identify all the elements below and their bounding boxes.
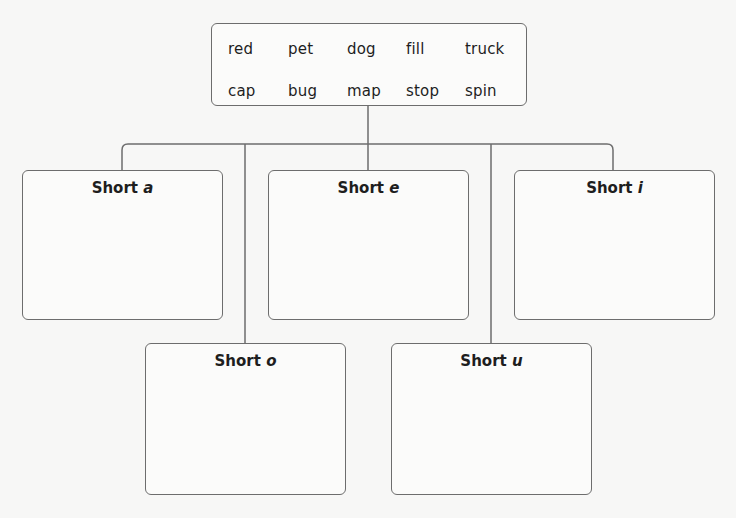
word-dog: dog xyxy=(347,40,376,58)
short-u-title: Short u xyxy=(392,352,591,370)
short-u-box[interactable]: Short u xyxy=(391,343,592,495)
word-map: map xyxy=(347,82,381,100)
short-i-box[interactable]: Short i xyxy=(514,170,715,320)
word-bug: bug xyxy=(288,82,317,100)
short-a-box[interactable]: Short a xyxy=(22,170,223,320)
short-a-title: Short a xyxy=(23,179,222,197)
short-e-box[interactable]: Short e xyxy=(268,170,469,320)
word-pet: pet xyxy=(288,40,313,58)
short-o-box[interactable]: Short o xyxy=(145,343,346,495)
short-i-title: Short i xyxy=(515,179,714,197)
word-stop: stop xyxy=(406,82,439,100)
word-bank: red pet dog fill truck cap bug map stop … xyxy=(211,23,527,106)
word-spin: spin xyxy=(465,82,497,100)
short-o-title: Short o xyxy=(146,352,345,370)
short-e-title: Short e xyxy=(269,179,468,197)
word-fill: fill xyxy=(406,40,425,58)
word-red: red xyxy=(228,40,253,58)
word-cap: cap xyxy=(228,82,256,100)
word-truck: truck xyxy=(465,40,505,58)
